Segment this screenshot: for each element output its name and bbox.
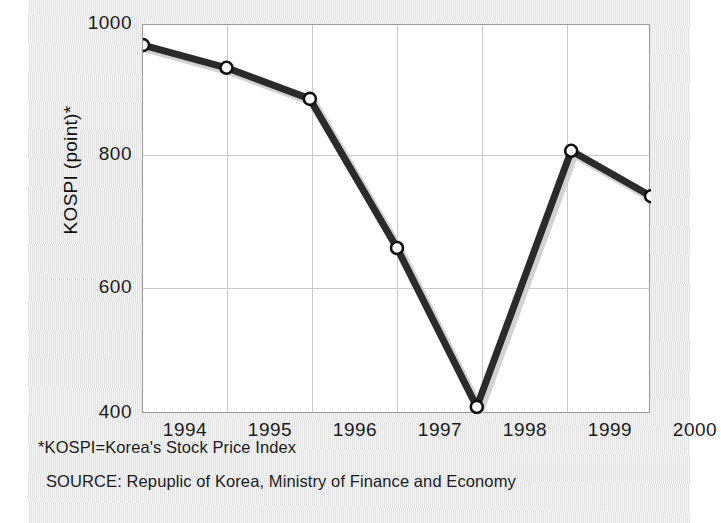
source-note: SOURCE: Repuplic of Korea, Ministry of F…: [46, 472, 516, 491]
y-tick-label-1000: 1000: [72, 12, 132, 34]
footnote-kospi-definition: *KOSPI=Korea's Stock Price Index: [38, 438, 296, 457]
x-tick-label-1999: 1999: [565, 419, 655, 441]
plot-area: [142, 24, 650, 413]
data-point-marker: [304, 93, 316, 105]
x-tick-label-1996: 1996: [310, 419, 400, 441]
series-line-shadow: [146, 48, 651, 410]
x-tick-label-1998: 1998: [480, 419, 570, 441]
y-tick-label-800: 800: [72, 143, 132, 165]
x-tick-label-2000: 2000: [650, 419, 721, 441]
y-tick-label-400: 400: [72, 401, 132, 423]
series-markers: [143, 39, 651, 413]
data-point-marker: [471, 401, 483, 413]
y-axis-title: KOSPI (point)*: [60, 50, 82, 290]
data-point-marker: [221, 62, 233, 74]
series-svg: [143, 25, 651, 414]
data-point-marker: [645, 190, 651, 202]
data-point-marker: [565, 145, 577, 157]
data-point-marker: [391, 242, 403, 254]
x-tick-label-1997: 1997: [395, 419, 485, 441]
y-tick-label-600: 600: [72, 276, 132, 298]
series-line-kospi: [143, 45, 651, 407]
data-point-marker: [143, 39, 149, 51]
